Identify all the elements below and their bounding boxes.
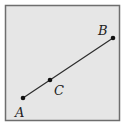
label-a: A <box>14 105 24 120</box>
diagram-canvas: A C B <box>0 0 126 127</box>
point-c <box>48 78 53 83</box>
label-c: C <box>54 83 64 98</box>
label-b: B <box>97 23 108 38</box>
point-a <box>21 96 26 101</box>
point-b <box>111 36 116 41</box>
